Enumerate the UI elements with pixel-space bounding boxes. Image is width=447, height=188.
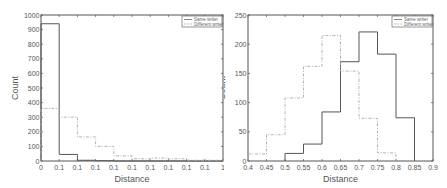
right-chart-x-tick-label: 0.45 <box>260 164 274 171</box>
right-chart-y-tick-label: 250 <box>235 12 247 19</box>
left-chart-y-tick-label: 300 <box>28 114 40 121</box>
left-chart-legend-label: Different writer <box>194 22 224 27</box>
left-chart-x-tick-label: 0.1 <box>145 164 155 171</box>
histogram-right: 0.40.450.50.550.60.650.70.750.80.850.905… <box>224 0 447 188</box>
left-chart-y-tick-label: 900 <box>28 26 40 33</box>
left-chart-y-axis-title: Count <box>10 76 20 101</box>
histogram-left-plot: 00.10.10.10.10.10.10.10.10.1101002003004… <box>0 0 224 188</box>
left-chart-x-tick-label: 0.1 <box>182 164 192 171</box>
left-chart-y-tick-label: 800 <box>28 41 40 48</box>
left-chart-series-same-writer <box>41 24 223 161</box>
right-chart-x-tick-label: 0.85 <box>408 164 422 171</box>
right-chart-x-tick-label: 0.65 <box>334 164 348 171</box>
right-chart-y-axis-title: Count <box>224 76 227 101</box>
left-chart-series-different-writer <box>41 108 223 161</box>
right-chart-x-tick-label: 0.6 <box>317 164 327 171</box>
right-chart-y-tick-label: 0 <box>243 158 247 165</box>
right-chart-x-tick-label: 0.55 <box>297 164 311 171</box>
left-chart-x-tick-label: 0.1 <box>164 164 174 171</box>
left-chart-y-tick-label: 700 <box>28 55 40 62</box>
left-chart-x-tick-label: 0.1 <box>73 164 83 171</box>
right-chart-series-same-writer <box>285 32 415 161</box>
right-chart-x-tick-label: 0.9 <box>428 164 438 171</box>
left-chart-x-tick-label: 0 <box>39 164 43 171</box>
right-chart-x-tick-label: 0.7 <box>354 164 364 171</box>
left-chart-axes-frame <box>41 15 223 161</box>
left-chart-y-tick-label: 100 <box>28 143 40 150</box>
left-chart-x-tick-label: 0.1 <box>127 164 137 171</box>
left-chart-x-axis-title: Distance <box>114 174 149 184</box>
histogram-left: 00.10.10.10.10.10.10.10.10.1101002003004… <box>0 0 224 188</box>
right-chart-x-tick-label: 0.5 <box>280 164 290 171</box>
right-chart-y-tick-label: 100 <box>235 99 247 106</box>
left-chart-y-tick-label: 500 <box>28 85 40 92</box>
left-chart-y-tick-label: 200 <box>28 128 40 135</box>
right-chart-legend: Same writerDifferent writer <box>392 16 434 27</box>
left-chart-x-tick-label: 0.1 <box>54 164 64 171</box>
right-chart-y-tick-label: 50 <box>239 128 247 135</box>
histogram-right-plot: 0.40.450.50.550.60.650.70.750.80.850.905… <box>224 0 447 188</box>
right-chart-x-axis-title: Distance <box>323 174 358 184</box>
left-chart-y-tick-label: 400 <box>28 99 40 106</box>
right-chart-x-tick-label: 0.8 <box>391 164 401 171</box>
right-chart-x-tick-label: 0.4 <box>243 164 253 171</box>
left-chart-x-tick-label: 0.1 <box>109 164 119 171</box>
right-chart-y-tick-label: 150 <box>235 70 247 77</box>
left-chart-y-tick-label: 0 <box>36 158 40 165</box>
right-chart-y-tick-label: 200 <box>235 41 247 48</box>
right-chart-legend-label: Different writer <box>404 22 434 27</box>
left-chart-x-tick-label: 0.1 <box>91 164 101 171</box>
left-chart-y-tick-label: 1000 <box>24 12 40 19</box>
left-chart-y-tick-label: 600 <box>28 70 40 77</box>
right-chart-x-tick-label: 0.75 <box>371 164 385 171</box>
left-chart-legend: Same writerDifferent writer <box>182 16 224 27</box>
left-chart-x-tick-label: 0.1 <box>200 164 210 171</box>
